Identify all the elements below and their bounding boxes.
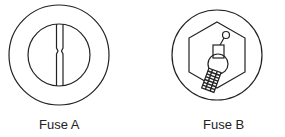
fuse-a-label: Fuse A <box>39 117 79 132</box>
fuse-b-drawing <box>172 10 262 100</box>
fuse-a-inner-circle <box>28 24 90 86</box>
fuse-a-outer-ring <box>9 5 109 105</box>
fuse-a-drawing <box>9 5 109 105</box>
fuse-a-element <box>57 24 64 86</box>
fuse-b-label: Fuse B <box>203 117 244 132</box>
fuse-b-outer-circle <box>172 10 262 100</box>
